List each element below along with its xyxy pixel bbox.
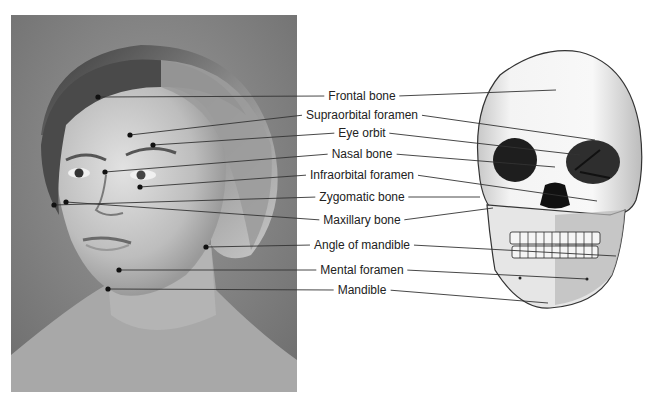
leader-line-face bbox=[105, 154, 330, 172]
landmark-dot bbox=[203, 244, 208, 249]
leader-line-face bbox=[66, 202, 321, 220]
leader-line-face bbox=[206, 245, 312, 247]
landmark-dot bbox=[63, 199, 68, 204]
landmark-dot bbox=[102, 169, 107, 174]
label-nasal-bone: Nasal bone bbox=[328, 147, 397, 161]
anatomy-figure: Frontal bone Supraorbital foramen Eye or… bbox=[0, 0, 655, 403]
landmark-dot bbox=[95, 94, 100, 99]
leader-line-face bbox=[130, 115, 304, 135]
landmark-dot bbox=[51, 202, 56, 207]
label-zygomatic-bone: Zygomatic bone bbox=[315, 190, 408, 204]
leader-line-face bbox=[98, 96, 326, 97]
landmark-dot bbox=[116, 267, 121, 272]
leader-line-skull bbox=[403, 208, 493, 220]
leader-line-face bbox=[108, 289, 336, 290]
label-eye-orbit: Eye orbit bbox=[334, 126, 389, 140]
label-frontal-bone: Frontal bone bbox=[324, 89, 399, 103]
landmark-dot bbox=[127, 132, 132, 137]
label-angle-of-mandible: Angle of mandible bbox=[310, 238, 414, 252]
label-mental-foramen: Mental foramen bbox=[316, 263, 407, 277]
landmark-dots bbox=[51, 94, 208, 291]
landmark-dot bbox=[105, 286, 110, 291]
landmark-dot bbox=[150, 142, 155, 147]
leader-line-face bbox=[153, 133, 336, 145]
label-maxillary-bone: Maxillary bone bbox=[319, 213, 404, 227]
label-mandible: Mandible bbox=[334, 283, 391, 297]
label-infraorbital-foramen: Infraorbital foramen bbox=[306, 168, 418, 182]
leader-line-face bbox=[140, 175, 308, 187]
landmark-dot bbox=[137, 184, 142, 189]
label-supraorbital-foramen: Supraorbital foramen bbox=[302, 108, 422, 122]
